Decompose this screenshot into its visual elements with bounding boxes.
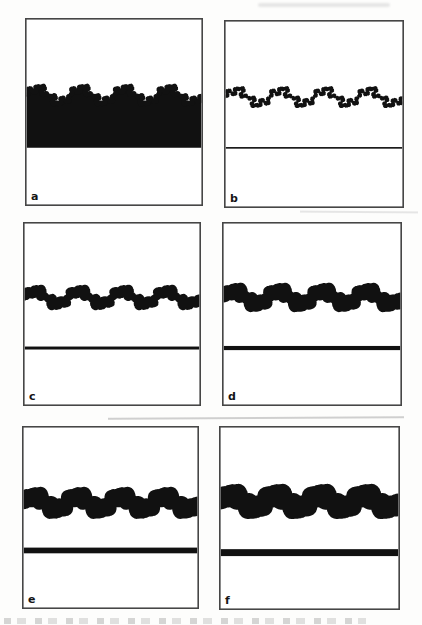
panel-d-label: d <box>228 391 236 402</box>
panel-a-label: a <box>31 191 38 202</box>
panel-e-fractal-plot <box>22 426 199 609</box>
panel-b-fractal-plot <box>224 20 404 208</box>
scan-artifact <box>258 3 390 7</box>
panel-f-label: f <box>225 595 230 606</box>
panel-b: b <box>224 20 404 208</box>
scan-artifact-caption-fragment <box>4 618 366 624</box>
scan-artifact <box>108 416 404 420</box>
panel-b-label: b <box>230 193 238 204</box>
panel-f-fractal-plot <box>219 426 400 610</box>
panel-c: c <box>23 222 201 406</box>
panel-d: d <box>222 222 402 406</box>
panel-d-fractal-plot <box>222 222 402 406</box>
panel-c-fractal-plot <box>23 222 201 406</box>
panel-e: e <box>22 426 199 609</box>
panel-c-label: c <box>29 391 36 402</box>
panel-f: f <box>219 426 400 610</box>
figure-page: a b c d e f <box>0 0 422 625</box>
panel-e-label: e <box>28 594 35 605</box>
panel-a: a <box>25 18 203 206</box>
scan-artifact <box>300 211 418 214</box>
panel-a-fractal-plot <box>25 18 203 206</box>
